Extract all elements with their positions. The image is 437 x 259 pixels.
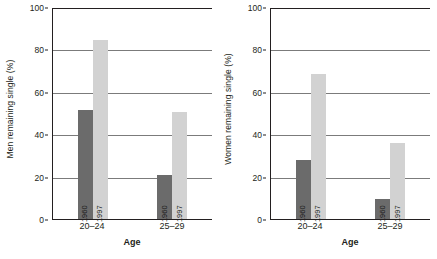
bar-group: 19601997 — [271, 8, 351, 220]
y-axis-title-women: Women remaining single (%) — [221, 0, 235, 218]
y-tick-mark — [263, 135, 266, 136]
chart-panel-men: Men remaining single (%) 100806040200 19… — [0, 0, 218, 259]
bar-1960[interactable]: 1960 — [296, 160, 311, 220]
x-axis-line-men — [53, 219, 212, 220]
x-category-label: 25–29 — [350, 222, 430, 231]
y-tick-label: 20 — [35, 173, 44, 182]
bar-group: 19601997 — [53, 8, 133, 220]
bar-1960[interactable]: 1960 — [157, 175, 172, 220]
y-tick-label: 40 — [35, 131, 44, 140]
bar-1960[interactable]: 1960 — [78, 110, 93, 220]
bar-group: 19601997 — [133, 8, 213, 220]
y-tick-mark — [45, 220, 48, 221]
y-tick-label: 80 — [253, 46, 262, 55]
figure: Men remaining single (%) 100806040200 19… — [0, 0, 437, 259]
y-tick-mark — [263, 177, 266, 178]
x-category-label: 20–24 — [270, 222, 350, 231]
plot-area-men: 1960199719601997 — [52, 8, 212, 220]
bar-1997[interactable]: 1997 — [93, 40, 108, 220]
bar-groups-women: 1960199719601997 — [271, 8, 430, 220]
x-category-label: 25–29 — [132, 222, 212, 231]
y-tick-label: 60 — [253, 89, 262, 98]
y-tick-label: 40 — [253, 131, 262, 140]
y-tick-label: 0 — [257, 216, 262, 225]
y-tick-label: 100 — [30, 4, 44, 13]
x-axis-title-women: Age — [270, 238, 430, 247]
x-axis-categories-men: 20–2425–29 — [52, 222, 212, 231]
y-tick-mark — [45, 50, 48, 51]
x-axis-title-men: Age — [52, 238, 212, 247]
x-axis-line-women — [271, 219, 430, 220]
y-axis-ticks-men: 100806040200 — [18, 8, 48, 220]
y-tick-mark — [45, 92, 48, 93]
bar-group: 19601997 — [351, 8, 431, 220]
y-tick-label: 0 — [39, 216, 44, 225]
bar-1997[interactable]: 1997 — [172, 112, 187, 220]
y-axis-title-men: Men remaining single (%) — [3, 0, 17, 218]
y-tick-mark — [263, 92, 266, 93]
x-category-label: 20–24 — [52, 222, 132, 231]
plot-area-women: 1960199719601997 — [270, 8, 430, 220]
y-tick-mark — [263, 50, 266, 51]
bar-groups-men: 1960199719601997 — [53, 8, 212, 220]
y-tick-mark — [45, 8, 48, 9]
y-tick-label: 60 — [35, 89, 44, 98]
chart-panel-women: Women remaining single (%) 100806040200 … — [218, 0, 436, 259]
y-tick-label: 80 — [35, 46, 44, 55]
y-tick-label: 100 — [248, 4, 262, 13]
y-tick-mark — [45, 177, 48, 178]
y-tick-label: 20 — [253, 173, 262, 182]
bars: 19601997 — [53, 8, 133, 220]
bars: 19601997 — [351, 8, 431, 220]
bars: 19601997 — [133, 8, 213, 220]
bar-1960[interactable]: 1960 — [375, 199, 390, 220]
y-tick-mark — [263, 8, 266, 9]
bar-1997[interactable]: 1997 — [390, 143, 405, 220]
y-tick-mark — [45, 135, 48, 136]
bar-1997[interactable]: 1997 — [311, 74, 326, 220]
bars: 19601997 — [271, 8, 351, 220]
x-axis-categories-women: 20–2425–29 — [270, 222, 430, 231]
y-tick-mark — [263, 220, 266, 221]
y-axis-ticks-women: 100806040200 — [236, 8, 266, 220]
